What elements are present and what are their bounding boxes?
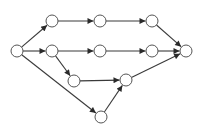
node-a1: [46, 15, 58, 27]
node-b3: [146, 45, 158, 57]
node-layer: [11, 15, 192, 123]
node-b2: [94, 45, 106, 57]
node-e: [95, 111, 107, 123]
edge-layer: [22, 21, 182, 113]
node-a3: [146, 15, 158, 27]
edge-c-to-d: [80, 80, 120, 81]
node-t: [180, 45, 192, 57]
node-c: [68, 75, 80, 87]
node-a2: [94, 15, 106, 27]
edge-a3-to-t: [156, 25, 181, 47]
node-b1: [46, 45, 58, 57]
graph-diagram: [0, 0, 210, 129]
graph-svg: [0, 0, 210, 129]
edge-s-to-a1: [22, 25, 48, 47]
node-s: [11, 45, 23, 57]
edge-b1-to-c: [56, 56, 71, 76]
edge-e-to-d: [104, 85, 122, 112]
node-d: [120, 74, 132, 86]
edge-s-to-e: [22, 55, 96, 113]
edge-d-to-t: [131, 54, 180, 78]
